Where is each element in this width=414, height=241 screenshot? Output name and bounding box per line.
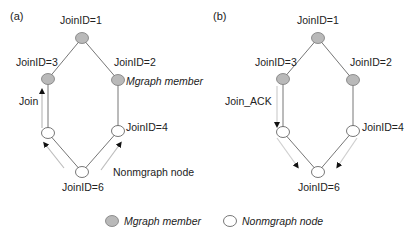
node-b-joinid-1 — [312, 33, 325, 44]
node-b-joinid-4 — [347, 126, 360, 137]
label-a-mgraph-member-note: Mgraph member — [126, 75, 203, 87]
node-b-joinid-6 — [312, 167, 325, 178]
edge-b-1-2 — [318, 38, 353, 80]
node-a-joinid-3 — [42, 74, 55, 85]
label-a-join-message: Join — [19, 95, 38, 107]
ack-arrow-left-to-6 — [277, 138, 297, 166]
panel-a-label: (a) — [10, 10, 23, 22]
diagram-canvas — [0, 0, 414, 241]
label-b-joinid-6: JoinID=6 — [298, 181, 340, 193]
label-b-join-ack-message: Join_ACK — [225, 95, 272, 107]
panel-b-graph — [277, 33, 360, 178]
edge-b-left-6 — [283, 132, 318, 172]
label-b-joinid-2: JoinID=2 — [350, 56, 392, 68]
label-a-joinid-3: JoinID=3 — [16, 56, 58, 68]
node-b-joinid-3 — [277, 74, 290, 85]
label-a-joinid-6: JoinID=6 — [62, 181, 104, 193]
node-a-joinid-2 — [112, 75, 125, 86]
node-a-unlabeled-left — [42, 128, 55, 139]
legend-mgraph-member-swatch-icon — [106, 216, 119, 227]
label-b-joinid-1: JoinID=1 — [297, 14, 339, 26]
node-b-joinid-2 — [347, 75, 360, 86]
label-a-nonmgraph-node-note: Nonmgraph node — [113, 166, 194, 178]
label-a-joinid-2: JoinID=2 — [114, 56, 156, 68]
node-a-joinid-1 — [76, 33, 89, 44]
label-b-joinid-4: JoinID=4 — [362, 121, 404, 133]
node-a-joinid-6 — [76, 167, 89, 178]
edge-a-1-2 — [82, 38, 118, 80]
legend-nonmgraph-node-label: Nonmgraph node — [242, 215, 323, 227]
legend-mgraph-member-label: Mgraph member — [124, 215, 201, 227]
panel-a-graph — [42, 33, 125, 178]
label-a-joinid-4: JoinID=4 — [126, 121, 168, 133]
label-b-joinid-3: JoinID=3 — [255, 56, 297, 68]
node-a-joinid-4 — [112, 126, 125, 137]
ack-arrow-4-to-6 — [338, 138, 357, 166]
node-b-unlabeled-left — [277, 127, 290, 138]
edge-a-left-6 — [48, 133, 82, 172]
label-a-joinid-1: JoinID=1 — [60, 14, 102, 26]
legend-nonmgraph-node-swatch-icon — [224, 216, 237, 227]
panel-b-label: (b) — [213, 10, 226, 22]
